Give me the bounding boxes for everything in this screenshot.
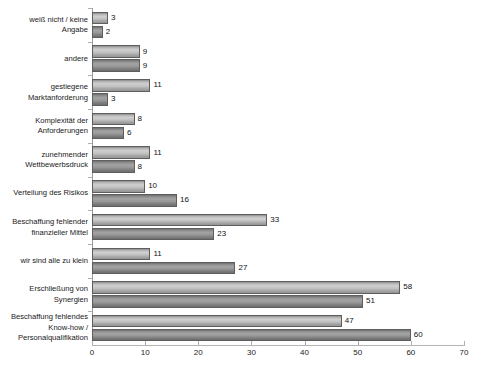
bar-value-label: 11 bbox=[153, 148, 161, 158]
bar-series-1 bbox=[92, 228, 214, 241]
category-label: Beschaffung fehlender finanzieller Mitte… bbox=[2, 217, 88, 238]
bar-series-1 bbox=[92, 262, 235, 275]
bar-value-label: 23 bbox=[217, 229, 226, 239]
y-tick-mark bbox=[88, 278, 92, 279]
bar-value-label: 8 bbox=[138, 162, 142, 172]
bar-series-0 bbox=[92, 281, 400, 294]
bar-value-label: 51 bbox=[366, 296, 375, 306]
category-label: gestiegene Marktanforderung bbox=[2, 82, 88, 103]
bar-series-1 bbox=[92, 127, 124, 140]
bar-value-label: 9 bbox=[143, 47, 147, 57]
x-tick-mark bbox=[198, 341, 199, 346]
x-tick-label: 50 bbox=[353, 348, 362, 358]
bar-series-0 bbox=[92, 12, 108, 25]
y-tick-mark bbox=[88, 210, 92, 211]
x-tick-mark bbox=[145, 341, 146, 346]
category-label: weiß nicht / keine Angabe bbox=[2, 14, 88, 35]
category-label: zunehmender Wettbewerbsdruck bbox=[2, 149, 88, 170]
y-tick-mark bbox=[88, 311, 92, 312]
bar-series-1 bbox=[92, 93, 108, 106]
x-tick-mark bbox=[358, 341, 359, 346]
x-tick-label: 20 bbox=[194, 348, 203, 358]
x-tick-label: 40 bbox=[300, 348, 309, 358]
bar-series-0 bbox=[92, 146, 150, 159]
x-tick-mark bbox=[464, 341, 465, 346]
bar-series-1 bbox=[92, 26, 103, 39]
bar-value-label: 6 bbox=[127, 128, 131, 138]
bar-series-0 bbox=[92, 113, 135, 126]
category-label: Erschließung von Synergien bbox=[2, 284, 88, 305]
bar-series-0 bbox=[92, 79, 150, 92]
bar-value-label: 10 bbox=[148, 181, 157, 191]
bar-value-label: 8 bbox=[138, 114, 142, 124]
bar-series-1 bbox=[92, 295, 363, 308]
bar-series-0 bbox=[92, 180, 145, 193]
category-label: wir sind alle zu klein bbox=[2, 256, 88, 267]
bar-value-label: 33 bbox=[270, 215, 279, 225]
bar-value-label: 9 bbox=[143, 61, 147, 71]
bar-value-label: 27 bbox=[238, 263, 247, 273]
x-tick-mark bbox=[305, 341, 306, 346]
bar-value-label: 2 bbox=[106, 27, 110, 37]
y-tick-mark bbox=[88, 244, 92, 245]
category-label: andere bbox=[2, 53, 88, 64]
bar-value-label: 3 bbox=[111, 94, 115, 104]
x-tick-label: 60 bbox=[406, 348, 415, 358]
bar-series-1 bbox=[92, 160, 135, 173]
bar-value-label: 16 bbox=[180, 195, 189, 205]
x-axis-line bbox=[92, 345, 464, 346]
bar-value-label: 3 bbox=[111, 13, 115, 23]
bar-value-label: 58 bbox=[403, 282, 412, 292]
category-label: Beschaffung fehlendes Know-how / Persona… bbox=[2, 312, 88, 344]
bar-series-0 bbox=[92, 214, 267, 227]
bar-series-0 bbox=[92, 248, 150, 261]
y-tick-mark bbox=[88, 109, 92, 110]
category-label: Verteilung des Risikos bbox=[2, 188, 88, 199]
y-tick-mark bbox=[88, 143, 92, 144]
bar-value-label: 11 bbox=[153, 80, 161, 90]
bar-series-1 bbox=[92, 59, 140, 72]
x-tick-label: 10 bbox=[141, 348, 150, 358]
bar-value-label: 60 bbox=[414, 330, 423, 340]
bar-chart: 010203040506070 weiß nicht / keine Angab… bbox=[0, 0, 484, 367]
x-tick-mark bbox=[411, 341, 412, 346]
x-tick-mark bbox=[251, 341, 252, 346]
y-tick-mark bbox=[88, 75, 92, 76]
bar-series-0 bbox=[92, 45, 140, 58]
bar-value-label: 11 bbox=[153, 249, 161, 259]
bar-value-label: 47 bbox=[345, 316, 354, 326]
x-tick-mark bbox=[92, 341, 93, 346]
bar-series-1 bbox=[92, 194, 177, 207]
x-tick-label: 30 bbox=[247, 348, 256, 358]
x-tick-label: 70 bbox=[460, 348, 469, 358]
bar-series-1 bbox=[92, 329, 411, 342]
y-tick-mark bbox=[88, 177, 92, 178]
category-label: Komplexität der Anforderungen bbox=[2, 115, 88, 136]
y-tick-mark bbox=[88, 42, 92, 43]
x-tick-label: 0 bbox=[90, 348, 94, 358]
y-tick-mark bbox=[88, 8, 92, 9]
bar-series-0 bbox=[92, 315, 342, 328]
